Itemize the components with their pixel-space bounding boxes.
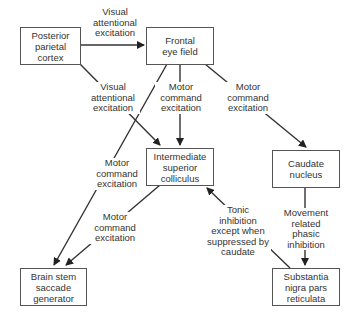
edge-label-ppc-fef: Visual attentional excitation (86, 7, 144, 39)
edge-label-fef-isc: Motor command excitation (155, 82, 207, 114)
node-brain-stem-saccade-generator: Brain stem saccade generator (20, 268, 87, 306)
edge-label-snr-isc: Tonic inhibition except when suppressed … (205, 205, 271, 258)
node-substantia-nigra-pars-reticulata: Substantia nigra pars reticulata (272, 268, 340, 306)
edge-label-caudate-snr: Movement related phasic inhibition (275, 208, 337, 250)
node-frontal-eye-field: Frontal eye field (146, 27, 214, 65)
edge-label-isc-brainstem: Motor command excitation (89, 212, 141, 244)
edge-label-ppc-isc: Visual attentional excitation (86, 82, 140, 114)
edge-label-fef-brainstem: Motor command excitation (91, 158, 143, 190)
node-caudate-nucleus: Caudate nucleus (272, 150, 340, 188)
node-posterior-parietal-cortex: Posterior parietal cortex (20, 27, 81, 65)
edge-label-fef-caudate: Motor command excitation (222, 82, 274, 114)
node-intermediate-superior-colliculus: Intermediate superior colliculus (146, 148, 214, 186)
